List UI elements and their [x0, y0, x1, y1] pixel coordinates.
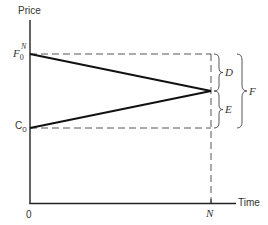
- futures-price-marker: F0N: [13, 48, 24, 59]
- spot-price-sub: 0: [22, 125, 26, 134]
- x-axis-label: Time: [238, 198, 260, 208]
- futures-price-sub: 0: [20, 53, 24, 62]
- spot-price-marker: C0: [15, 121, 27, 131]
- futures-price-sup: N: [21, 43, 26, 51]
- futures-price-line: [30, 54, 211, 91]
- n-label: N: [206, 208, 213, 219]
- spot-price-line: [30, 91, 211, 128]
- brace-d: [214, 54, 223, 91]
- brace-f: [237, 54, 247, 128]
- brace-d-label: D: [225, 67, 233, 78]
- brace-f-label: F: [249, 86, 256, 97]
- y-axis-label: Price: [18, 6, 41, 16]
- futures-price-main: F: [13, 47, 20, 59]
- origin-label: 0: [26, 210, 32, 220]
- brace-e: [214, 91, 223, 128]
- brace-e-label: E: [225, 104, 232, 115]
